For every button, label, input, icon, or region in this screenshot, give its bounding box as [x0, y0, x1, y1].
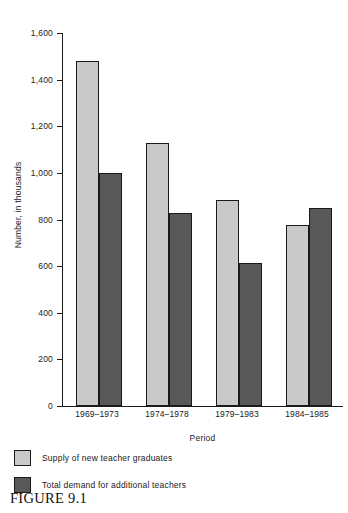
y-tick-label: 1,200 [31, 121, 53, 131]
x-category-label: 1979–1983 [202, 409, 272, 419]
figure-caption: FIGURE 9.1 [10, 490, 87, 507]
y-tick-label: 1,600 [31, 28, 53, 38]
plot-area: 02004006008001,0001,2001,4001,600 [62, 33, 342, 406]
y-tick-label: 1,400 [31, 75, 53, 85]
legend-label-demand: Total demand for additional teachers [42, 480, 186, 490]
x-category-label: 1969–1973 [62, 409, 132, 419]
y-tick-label: 1,000 [31, 168, 53, 178]
bar-group [286, 33, 332, 406]
bar-group [146, 33, 192, 406]
bar-supply [286, 225, 309, 406]
y-tick-label: 400 [38, 308, 53, 318]
bar-demand [309, 208, 332, 406]
legend-item-supply: Supply of new teacher graduates [14, 449, 186, 467]
y-tick-label: 800 [38, 215, 53, 225]
y-tick-label: 0 [48, 401, 53, 411]
x-axis-category-labels: 1969–19731974–19781979–19831984–1985 [62, 409, 343, 425]
bar-group [216, 33, 262, 406]
bar-demand [169, 213, 192, 406]
bar-supply [146, 143, 169, 406]
y-axis-title: Number, in thousands [13, 162, 23, 249]
bar-supply [216, 200, 239, 406]
y-tick-label: 200 [38, 354, 53, 364]
figure-9-1: Number, in thousands 02004006008001,0001… [0, 0, 348, 513]
bar-group [76, 33, 122, 406]
y-tick-mark [57, 406, 62, 407]
legend-label-supply: Supply of new teacher graduates [42, 453, 172, 463]
x-category-label: 1974–1978 [132, 409, 202, 419]
y-tick-label: 600 [38, 261, 53, 271]
bar-supply [76, 61, 99, 406]
bar-demand [99, 173, 122, 406]
x-axis-title: Period [62, 433, 343, 443]
legend-swatch-supply-icon [14, 450, 31, 466]
x-category-label: 1984–1985 [272, 409, 342, 419]
bar-demand [239, 263, 262, 406]
x-axis-line [62, 406, 343, 407]
bar-groups [62, 33, 342, 406]
